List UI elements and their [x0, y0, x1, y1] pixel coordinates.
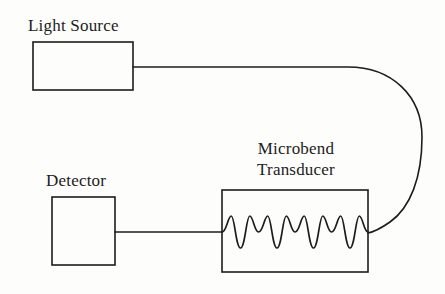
diagram-canvas [0, 0, 445, 294]
microbend-transducer-label-line-2: Transducer [238, 159, 354, 180]
microbend-transducer-label: Microbend Transducer [238, 138, 354, 180]
light-source-box [33, 42, 133, 90]
detector-box [52, 197, 115, 265]
microbend-transducer-diagram: Light Source Detector Microbend Transduc… [0, 0, 445, 294]
light-source-label: Light Source [28, 15, 119, 36]
microbend-transducer-label-line-1: Microbend [238, 138, 354, 159]
microbend-wave [222, 216, 368, 248]
microbend-transducer-box [222, 190, 368, 272]
detector-label: Detector [46, 170, 106, 191]
